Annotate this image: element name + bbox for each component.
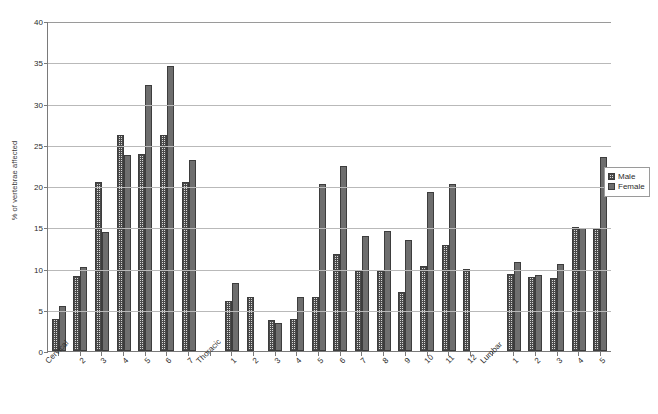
bar-male xyxy=(333,254,340,351)
x-axis-label-text: 9 xyxy=(403,356,413,366)
bar-female xyxy=(514,262,521,351)
x-axis-label-cell: 6 xyxy=(329,357,351,414)
bar-female xyxy=(167,66,174,351)
x-axis-label-cell: 4 xyxy=(568,357,590,414)
bar-male xyxy=(593,229,600,351)
y-tick-label-15: 15 xyxy=(34,224,43,233)
x-axis-label-cell: 8 xyxy=(372,357,394,414)
x-axis-label-text: 7 xyxy=(186,356,196,366)
x-axis-label-cell: 3 xyxy=(90,357,112,414)
gridline-30 xyxy=(48,105,611,106)
bar-male xyxy=(550,278,557,351)
x-axis-label-cell: 6 xyxy=(155,357,177,414)
x-axis-label-cell: 4 xyxy=(112,357,134,414)
legend-item-male: Male xyxy=(608,172,645,181)
x-axis-label-cell: 9 xyxy=(394,357,416,414)
legend: Male Female xyxy=(604,167,650,197)
x-axis-label-text: 3 xyxy=(99,356,109,366)
bar-male xyxy=(290,319,297,351)
bar-male xyxy=(182,182,189,351)
bar-female xyxy=(232,283,239,351)
gridline-5 xyxy=(48,311,611,312)
bar-male xyxy=(528,277,535,351)
x-axis-label-cell: Thoracic xyxy=(199,357,221,414)
bar-female xyxy=(297,297,304,351)
bar-female xyxy=(449,184,456,351)
x-axis-label-text: 5 xyxy=(598,356,608,366)
y-tick-label-35: 35 xyxy=(34,59,43,68)
bar-female xyxy=(579,228,586,351)
x-axis-label-text: 2 xyxy=(251,356,261,366)
x-axis-label-cell: 5 xyxy=(589,357,611,414)
y-tick-mark-20 xyxy=(44,187,48,188)
legend-label-male: Male xyxy=(618,172,635,181)
bar-male xyxy=(442,245,449,351)
y-tick-label-25: 25 xyxy=(34,141,43,150)
bar-female xyxy=(557,264,564,351)
x-axis-label-text: 1 xyxy=(229,356,239,366)
bar-chart: % of vertebrae affected 0510152025303540… xyxy=(0,0,658,414)
y-tick-mark-30 xyxy=(44,105,48,106)
y-axis-title: % of vertebrae affected xyxy=(8,0,22,360)
y-tick-mark-35 xyxy=(44,63,48,64)
bar-male xyxy=(572,227,579,351)
y-tick-mark-10 xyxy=(44,270,48,271)
x-axis-label-text: 6 xyxy=(164,356,174,366)
bar-female xyxy=(340,166,347,351)
gridline-40 xyxy=(48,22,611,23)
x-axis-label-cell: 4 xyxy=(286,357,308,414)
y-tick-mark-15 xyxy=(44,228,48,229)
legend-label-female: Female xyxy=(618,182,645,191)
x-axis-labels: Cervical234567Thoracic123456789101112Lum… xyxy=(47,357,611,414)
plot-area: 0510152025303540 xyxy=(47,22,611,352)
bar-female xyxy=(319,184,326,351)
x-axis-label-cell: 2 xyxy=(524,357,546,414)
x-axis-label-cell: 2 xyxy=(242,357,264,414)
bar-male xyxy=(507,274,514,351)
gridline-25 xyxy=(48,146,611,147)
bar-male xyxy=(138,154,145,351)
legend-swatch-male-icon xyxy=(608,173,615,180)
y-tick-mark-25 xyxy=(44,146,48,147)
bar-male xyxy=(225,301,232,351)
bar-female xyxy=(384,231,391,351)
bar-male xyxy=(160,135,167,351)
x-axis-label-cell: 1 xyxy=(502,357,524,414)
y-tick-mark-40 xyxy=(44,22,48,23)
y-tick-label-0: 0 xyxy=(39,348,43,357)
x-axis-label-text: 4 xyxy=(121,356,131,366)
x-axis-label-cell: 10 xyxy=(416,357,438,414)
x-axis-label-text: 8 xyxy=(381,356,391,366)
legend-item-female: Female xyxy=(608,182,645,191)
bar-female xyxy=(535,275,542,351)
bar-female xyxy=(80,267,87,351)
x-axis-label-text: 7 xyxy=(359,356,369,366)
y-tick-label-10: 10 xyxy=(34,265,43,274)
legend-swatch-female-icon xyxy=(608,183,615,190)
bar-male xyxy=(73,276,80,351)
x-axis-label-text: 5 xyxy=(142,356,152,366)
x-axis-label-cell: 5 xyxy=(307,357,329,414)
y-tick-label-20: 20 xyxy=(34,183,43,192)
x-axis-label-cell: 7 xyxy=(177,357,199,414)
gridline-20 xyxy=(48,187,611,188)
x-axis-label-cell: 11 xyxy=(437,357,459,414)
x-axis-label-text: 2 xyxy=(533,356,543,366)
x-axis-label-cell: 3 xyxy=(546,357,568,414)
x-axis-label-text: 1 xyxy=(511,356,521,366)
bar-female xyxy=(124,155,131,351)
gridline-35 xyxy=(48,63,611,64)
x-axis-label-text: 4 xyxy=(294,356,304,366)
gridline-10 xyxy=(48,270,611,271)
x-axis-label-cell: 1 xyxy=(221,357,243,414)
bar-male xyxy=(463,269,470,352)
x-axis-label-cell: 7 xyxy=(351,357,373,414)
x-axis-label-cell: 5 xyxy=(134,357,156,414)
y-tick-mark-5 xyxy=(44,311,48,312)
bar-male xyxy=(268,320,275,351)
y-tick-label-5: 5 xyxy=(39,306,43,315)
x-axis-label-cell: 12 xyxy=(459,357,481,414)
bar-male xyxy=(312,297,319,351)
x-axis-label-text: 5 xyxy=(316,356,326,366)
x-axis-label-text: 3 xyxy=(272,356,282,366)
